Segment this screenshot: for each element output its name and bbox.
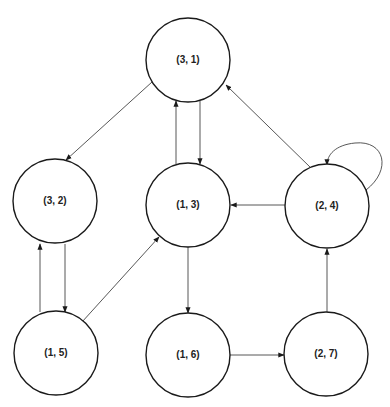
edge-arrow	[66, 82, 152, 160]
node-label: (3, 1)	[176, 54, 199, 65]
edge-arrow	[226, 85, 311, 168]
state-graph: (3, 1)(3, 2)(1, 3)(2, 4)(1, 5)(1, 6)(2, …	[0, 0, 390, 407]
node-label: (3, 2)	[43, 195, 66, 206]
graph-node: (2, 7)	[284, 312, 368, 396]
node-label: (1, 6)	[176, 349, 199, 360]
graph-node: (1, 3)	[146, 163, 230, 247]
node-label: (2, 7)	[314, 348, 337, 359]
graph-node: (1, 5)	[14, 311, 98, 395]
graph-node: (3, 1)	[146, 18, 230, 102]
graph-node: (1, 6)	[146, 313, 230, 397]
nodes-layer: (3, 1)(3, 2)(1, 3)(2, 4)(1, 5)(1, 6)(2, …	[13, 18, 369, 397]
node-label: (1, 5)	[44, 347, 67, 358]
graph-node: (2, 4)	[285, 164, 369, 248]
node-label: (1, 3)	[176, 199, 199, 210]
graph-node: (3, 2)	[13, 159, 97, 243]
node-label: (2, 4)	[315, 200, 338, 211]
edge-arrow	[82, 237, 159, 322]
